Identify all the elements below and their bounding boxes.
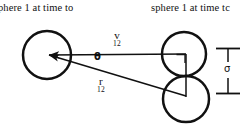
header-label-right-subscript: c — [225, 2, 230, 13]
sigma-diameter-label: σ — [224, 64, 230, 74]
velocity-vector-label: v 12 — [113, 30, 121, 48]
angle-theta-label: θ — [94, 52, 101, 62]
header-label-left: phere 1 at time to — [0, 3, 73, 14]
separation-label-subscript: 12 — [97, 86, 105, 94]
velocity-label-stack: v 12 — [113, 30, 121, 48]
header-label-right: sphere 1 at time tc — [151, 3, 230, 14]
velocity-label-subscript: 12 — [113, 40, 121, 48]
right-angle-icon — [177, 55, 186, 64]
header-label-right-text: sphere 1 at time t — [151, 2, 225, 13]
separation-label-stack: r 12 — [97, 76, 105, 94]
separation-vector-label: r 12 — [97, 76, 105, 94]
separation-vector-r12-line — [49, 55, 186, 96]
diagram-canvas — [0, 0, 250, 136]
collision-diagram-figure: phere 1 at time to sphere 1 at time tc v… — [0, 0, 250, 136]
bottom-cropped-text-fragment — [140, 129, 230, 135]
velocity-vector-v12-line — [49, 54, 186, 55]
header-label-left-subscript: o — [68, 2, 73, 13]
header-label-left-text: phere 1 at time t — [0, 2, 68, 13]
